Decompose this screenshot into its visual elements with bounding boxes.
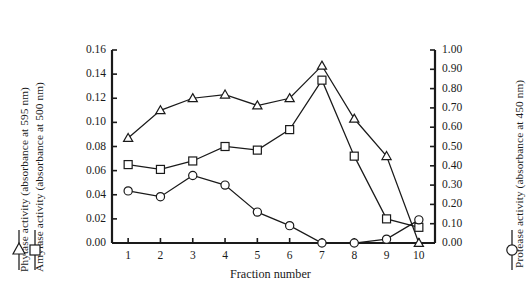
- right-tick-label: 0.50: [442, 140, 462, 152]
- x-tick-label: 8: [342, 249, 366, 261]
- left-tick-label: 0.08: [66, 140, 106, 152]
- left-tick-label: 0.12: [66, 91, 106, 103]
- data-point-circle: [318, 239, 326, 247]
- series-circle: [124, 171, 423, 247]
- right-tick-label: 0.80: [442, 82, 462, 94]
- left-tick-label: 0.00: [66, 236, 106, 248]
- x-tick-label: 7: [310, 249, 334, 261]
- left-tick-label: 0.10: [66, 115, 106, 127]
- data-point-circle: [221, 181, 229, 189]
- x-tick-label: 10: [407, 249, 431, 261]
- data-point-circle: [415, 216, 423, 224]
- left-tick-label: 0.16: [66, 43, 106, 55]
- right-tick-label: 0.00: [442, 236, 462, 248]
- left-tick-label: 0.06: [66, 164, 106, 176]
- figure-container: Phytase activity (absorbance at 595 nm) …: [0, 0, 527, 292]
- data-point-circle: [350, 239, 358, 247]
- data-point-circle: [156, 193, 164, 201]
- x-tick-label: 5: [245, 249, 269, 261]
- left-tick-label: 0.14: [66, 67, 106, 79]
- right-tick-label: 0.20: [442, 197, 462, 209]
- data-point-triangle: [350, 114, 359, 122]
- right-tick-label: 0.10: [442, 217, 462, 229]
- right-tick-label: 0.70: [442, 101, 462, 113]
- data-point-square: [221, 143, 229, 151]
- data-point-square: [156, 165, 164, 173]
- data-point-square: [383, 215, 391, 223]
- x-tick-label: 1: [116, 249, 140, 261]
- data-point-circle: [382, 235, 390, 243]
- x-tick-label: 9: [375, 249, 399, 261]
- data-point-circle: [189, 171, 197, 179]
- data-point-circle: [286, 222, 294, 230]
- right-tick-label: 0.40: [442, 159, 462, 171]
- right-tick-label: 0.30: [442, 178, 462, 190]
- data-point-triangle: [317, 61, 326, 69]
- data-point-circle: [253, 208, 261, 216]
- data-point-triangle: [220, 90, 229, 98]
- data-point-square: [124, 161, 132, 169]
- data-point-square: [189, 157, 197, 165]
- data-point-square: [286, 126, 294, 134]
- x-tick-label: 2: [148, 249, 172, 261]
- x-tick-label: 3: [181, 249, 205, 261]
- x-tick-label: 4: [213, 249, 237, 261]
- data-point-square: [253, 146, 261, 154]
- data-point-square: [318, 76, 326, 84]
- data-point-circle: [124, 187, 132, 195]
- x-tick-label: 6: [278, 249, 302, 261]
- right-tick-label: 0.60: [442, 120, 462, 132]
- data-point-square: [350, 152, 358, 160]
- left-tick-label: 0.04: [66, 188, 106, 200]
- left-tick-label: 0.02: [66, 212, 106, 224]
- right-tick-label: 1.00: [442, 43, 462, 55]
- series-square: [124, 76, 423, 231]
- right-tick-label: 0.90: [442, 62, 462, 74]
